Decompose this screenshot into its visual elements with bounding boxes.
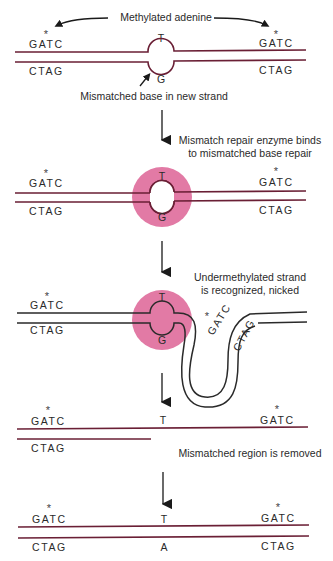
mismatch-bottom-base: G: [157, 73, 165, 85]
step-3-caption-line2: is recognized, nicked: [201, 284, 299, 296]
left-bottom-seq: CTAG: [30, 324, 65, 336]
right-bottom-seq: CTAG: [259, 64, 294, 76]
center-top-base: T: [160, 414, 167, 426]
right-top-seq: GATC: [259, 176, 294, 188]
nicked-strand-end: [258, 322, 307, 323]
left-bottom-seq: CTAG: [32, 541, 67, 553]
left-top-seq: GATC: [32, 513, 67, 525]
left-top-seq: GATC: [31, 415, 66, 427]
mismatch-caption: Mismatched base in new strand: [80, 90, 228, 102]
step-1-mismatch: Methylated adenine * * GATC GATC T CTAG …: [15, 11, 306, 102]
right-bottom-seq: CTAG: [261, 540, 296, 552]
methylated-adenine-label: Methylated adenine: [120, 11, 212, 23]
right-top-seq: GATC: [259, 37, 294, 49]
left-bottom-seq: CTAG: [29, 65, 64, 77]
step-2-caption-line2: to mismatched base repair: [188, 147, 312, 159]
mismatch-repair-diagram: Methylated adenine * * GATC GATC T CTAG …: [0, 0, 333, 561]
step-3-caption-line1: Undermethylated strand: [194, 271, 306, 283]
center-bottom-base: A: [160, 541, 167, 553]
arrow-right-icon: [214, 18, 266, 25]
loop-bottom-seq: CTAG: [230, 317, 257, 353]
methyl-marker: *: [205, 310, 210, 322]
step-2-caption-line1: Mismatch repair enzyme binds: [179, 134, 321, 146]
right-top-seq: GATC: [261, 512, 296, 524]
step-5-repaired: * * GATC GATC T CTAG CTAG A: [18, 501, 309, 553]
mismatch-bottom-base: G: [158, 211, 166, 223]
left-top-seq: GATC: [29, 38, 64, 50]
step-4-caption: Mismatched region is removed: [179, 447, 322, 459]
left-bottom-seq: CTAG: [31, 442, 66, 454]
left-bottom-seq: CTAG: [29, 205, 64, 217]
right-top-seq: GATC: [260, 414, 295, 426]
left-top-seq: GATC: [29, 177, 64, 189]
arrow-left-icon: [58, 18, 108, 25]
left-top-seq: GATC: [30, 299, 65, 311]
step-2-enzyme-binds: Mismatch repair enzyme binds to mismatch…: [15, 134, 321, 227]
top-strand: [17, 427, 308, 429]
center-top-base: T: [161, 513, 168, 525]
mismatch-bottom-base: G: [158, 334, 166, 346]
step-4-removed: * * GATC GATC T CTAG Mismatched region i…: [17, 403, 322, 459]
top-strand: [18, 525, 309, 527]
bottom-strand: [18, 536, 309, 538]
right-bottom-seq: CTAG: [259, 204, 294, 216]
pointer-arrow-icon: [140, 76, 148, 86]
